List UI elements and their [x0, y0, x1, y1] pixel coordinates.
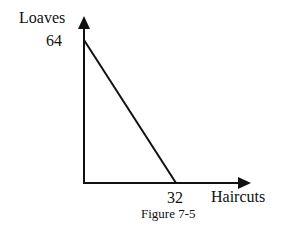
ppf-line: [84, 40, 176, 183]
figure-caption: Figure 7-5: [141, 207, 196, 220]
x-tick-32: 32: [167, 190, 183, 206]
x-axis-label: Haircuts: [211, 189, 265, 205]
y-axis-arrow-icon: [78, 16, 90, 29]
y-tick-64: 64: [46, 33, 62, 49]
y-axis-label: Loaves: [19, 10, 65, 26]
